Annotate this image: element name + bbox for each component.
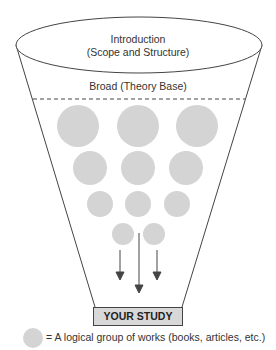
legend-text: = A logical group of works (books, artic…: [46, 331, 265, 343]
your-study-box: YOUR STUDY: [93, 307, 183, 326]
broad-label: Broad (Theory Base): [0, 80, 276, 93]
intro-title: Introduction: [0, 33, 276, 46]
intro-subtitle: (Scope and Structure): [0, 46, 276, 59]
